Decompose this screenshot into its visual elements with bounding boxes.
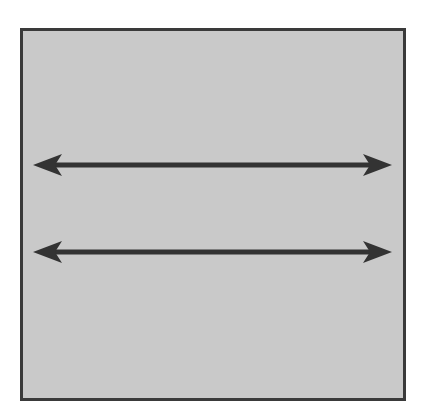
double-arrow-bottom	[33, 241, 392, 263]
double-arrow-top	[33, 154, 392, 176]
arrows-layer	[0, 0, 426, 412]
